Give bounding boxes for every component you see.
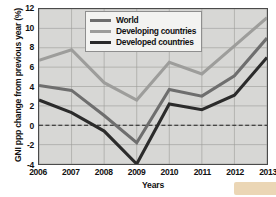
x-axis-tick-label: 2007 — [62, 168, 80, 177]
x-axis-tick-label: 2011 — [194, 168, 211, 177]
page-corner-tab — [234, 182, 276, 195]
legend-label-developing-countries: Developing countries — [116, 27, 196, 35]
series-line — [39, 57, 267, 164]
x-axis-tick-label: 2009 — [128, 168, 146, 177]
legend-swatch-developed-countries — [90, 41, 111, 44]
legend-label-world: World — [116, 16, 138, 24]
legend-item-developed-countries: Developed countries — [90, 37, 196, 48]
chart-figure: 121086420-2-4200620072008200920102011201… — [0, 0, 276, 197]
x-axis-tick-label: 2010 — [161, 168, 179, 177]
legend-item-developing-countries: Developing countries — [90, 26, 196, 37]
legend-item-world: World — [90, 15, 196, 26]
y-axis-title: GNI ppp change from previous year (%) — [13, 5, 23, 165]
legend-swatch-world — [90, 19, 111, 22]
x-axis-tick-label: 2013 — [259, 168, 276, 177]
series-line — [39, 38, 267, 143]
x-axis-tick-label: 2012 — [226, 168, 244, 177]
chart-legend: World Developing countries Developed cou… — [85, 11, 202, 52]
legend-swatch-developing-countries — [90, 30, 111, 33]
x-axis-tick-label: 2006 — [29, 168, 47, 177]
x-axis-tick-label: 2008 — [95, 168, 113, 177]
legend-label-developed-countries: Developed countries — [116, 38, 194, 46]
